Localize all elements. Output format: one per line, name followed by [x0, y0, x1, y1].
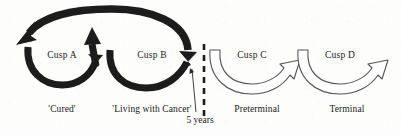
five-year-label: 5 years [186, 115, 213, 125]
cusp-label-d: Cusp D [325, 50, 355, 60]
phase-label-living-with-cancer: 'Living with Cancer' [112, 104, 191, 114]
cusp-a-to-top-arrow [84, 27, 101, 66]
cusp-label-c: Cusp C [237, 50, 266, 60]
cusp-label-a: Cusp A [47, 50, 76, 60]
phase-label-preterminal: Preterminal [234, 104, 279, 114]
cusp-label-b: Cusp B [137, 50, 166, 60]
phase-label-cured: 'Cured' [48, 104, 75, 114]
phase-label-terminal: Terminal [330, 104, 365, 114]
relapse-return-arrow [16, 9, 188, 50]
cusp-progression-diagram: Cusp A Cusp B Cusp C Cusp D 'Cured' 'Liv… [0, 0, 401, 135]
